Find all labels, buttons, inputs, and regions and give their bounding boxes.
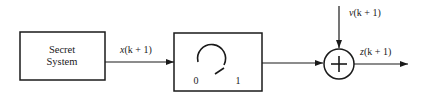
secret-system-block: Secret System xyxy=(20,32,105,80)
signal-v-label: v(k + 1) xyxy=(349,7,381,19)
signal-v-arrow: v(k + 1) xyxy=(339,6,381,48)
switch-label-0: 0 xyxy=(194,75,199,86)
secret-system-label-line2: System xyxy=(47,56,78,67)
signal-x-label: x(k + 1) xyxy=(119,44,152,56)
signal-z-label: z(k + 1) xyxy=(359,46,391,58)
secret-system-label-line1: Secret xyxy=(49,44,75,55)
switch-block: 0 1 xyxy=(174,33,262,91)
summing-junction xyxy=(324,49,354,79)
signal-x-arrow: x(k + 1) xyxy=(105,44,174,62)
block-diagram: Secret System x(k + 1) 0 1 v(k + 1) xyxy=(0,0,423,97)
signal-z-arrow: z(k + 1) xyxy=(354,46,408,64)
switch-label-1: 1 xyxy=(236,75,241,86)
